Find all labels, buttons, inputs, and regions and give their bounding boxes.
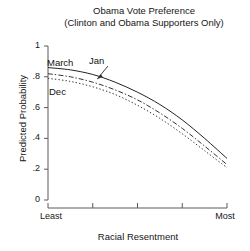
series-label-dec: Dec [49, 86, 66, 97]
x-tick-label-most: Most [215, 211, 235, 221]
x-tick-label-least: Least [40, 211, 62, 221]
chart-figure: Obama Vote Preference (Clinton and Obama… [0, 0, 250, 251]
x-tick-label-group: LeastMost [0, 0, 250, 251]
series-label-jan: Jan [89, 55, 104, 66]
series-label-march: March [47, 57, 73, 68]
